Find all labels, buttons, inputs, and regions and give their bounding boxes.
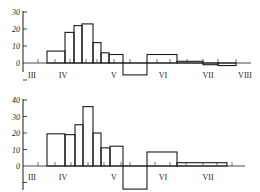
histogram-bar [147, 55, 177, 64]
top-histogram-panel: 0102030IIIIVVVIVIIVIII [11, 8, 252, 80]
month-label: III [28, 173, 36, 182]
month-label: VII [202, 71, 213, 80]
histogram-bar [65, 135, 75, 166]
y-tick-label: 10 [12, 146, 20, 155]
histogram-bar [47, 51, 65, 63]
y-tick-label: 10 [12, 42, 20, 51]
histogram-bar [177, 163, 227, 166]
histogram-bar [83, 107, 93, 166]
bottom-histogram-panel: 010203040IIIIVVVIVII [11, 96, 245, 190]
month-label: IV [59, 173, 68, 182]
month-label: V [111, 71, 117, 80]
histogram-bar [203, 63, 218, 65]
y-tick-label: 30 [11, 8, 20, 17]
month-label: IV [59, 71, 68, 80]
month-label: V [111, 173, 117, 182]
month-label: III [28, 71, 36, 80]
histogram-bar [147, 152, 177, 166]
month-label: VI [159, 71, 168, 80]
histogram-bar [109, 55, 123, 64]
histogram-bar [82, 24, 93, 63]
y-tick-label: 0 [16, 59, 20, 68]
y-tick-label: 40 [12, 96, 20, 105]
figure: 0102030IIIIVVVIVIIVIII 010203040IIIIVVVI… [0, 0, 260, 192]
histogram-bar [47, 134, 65, 166]
histogram-bar [177, 61, 203, 63]
histogram-bar [123, 63, 147, 75]
y-tick-label: 30 [11, 113, 20, 122]
histogram-bar [101, 148, 110, 166]
histogram-bar [65, 32, 74, 63]
histogram-bar [93, 133, 101, 166]
month-label: VII [202, 173, 213, 182]
histogram-bar [75, 125, 83, 166]
y-tick-label: 20 [12, 129, 20, 138]
histogram-bar [123, 166, 147, 189]
histogram-bar [74, 26, 82, 63]
month-label: VIII [238, 71, 252, 80]
y-tick-label: 0 [16, 162, 20, 171]
month-label: VI [159, 173, 168, 182]
histogram-bar [101, 53, 109, 63]
y-tick-label: 20 [12, 25, 20, 34]
histogram-bar [218, 63, 236, 66]
